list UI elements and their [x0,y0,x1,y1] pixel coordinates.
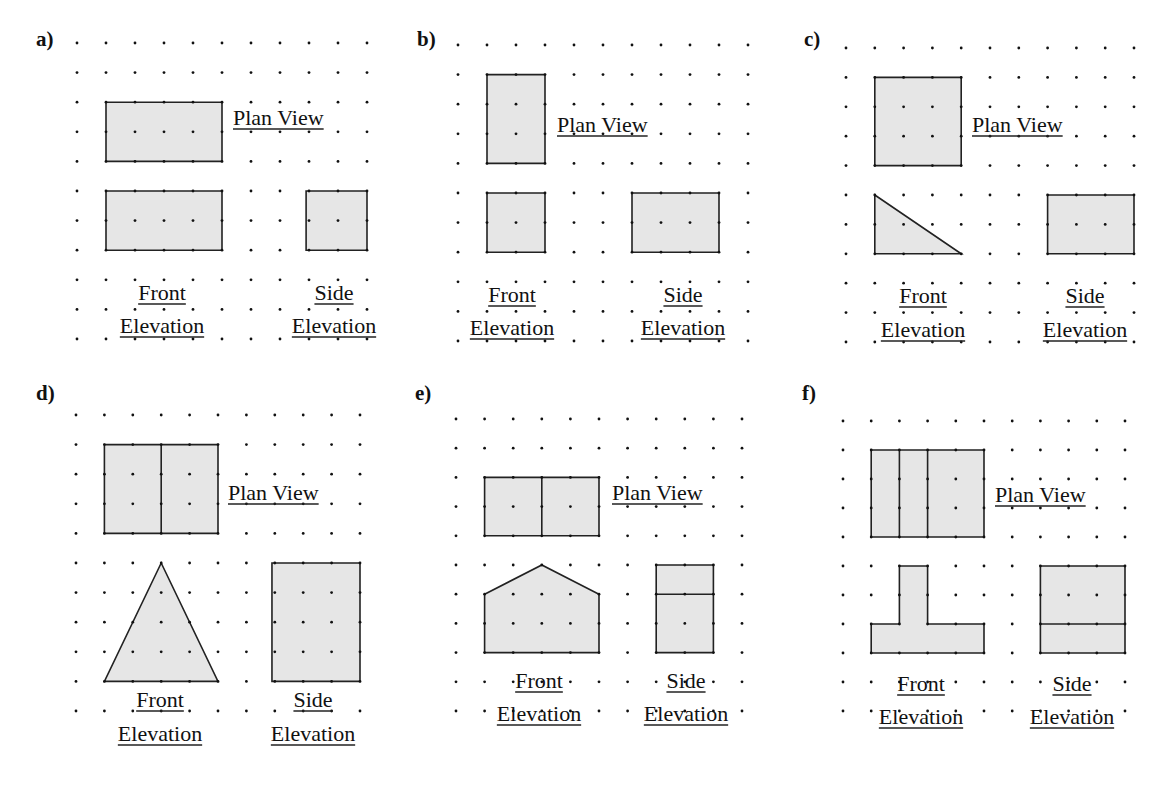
side-view-shape [306,191,367,250]
side-elevation-caption: Elevation [271,721,355,746]
panel-label: f) [802,381,816,405]
side-elevation-caption: Side [293,687,332,712]
panel-e: e)Plan ViewFrontElevationSideElevation [415,381,743,726]
panel-label: a) [36,27,54,51]
front-elevation-caption: Elevation [470,315,554,340]
side-elevation-caption: Elevation [1043,317,1127,342]
front-elevation-caption: Elevation [879,704,963,729]
side-elevation-caption: Elevation [292,313,376,338]
front-view-shape [485,565,599,653]
front-elevation-caption: Front [515,668,563,693]
side-elevation-caption: Side [1052,671,1091,696]
side-view-shape [1040,566,1125,653]
side-elevation-caption: Elevation [644,701,728,726]
plan-view-caption: Plan View [233,105,324,130]
side-elevation-caption: Elevation [641,315,725,340]
plan-view-caption: Plan View [228,480,319,505]
front-elevation-caption: Front [897,671,945,696]
front-view-shape [871,566,984,653]
panel-label: b) [417,27,436,51]
panel-f: f)Plan ViewFrontElevationSideElevation [802,381,1126,729]
plan-view-caption: Plan View [972,112,1063,137]
side-elevation-caption: Side [314,280,353,305]
side-view-shape [1048,195,1134,254]
panel-label: d) [36,381,55,405]
side-view-shape [272,563,360,681]
plan-view-caption: Plan View [557,112,648,137]
plan-view-caption: Plan View [612,480,703,505]
front-elevation-caption: Elevation [118,721,202,746]
front-elevation-caption: Front [138,280,186,305]
plan-view-shape [104,445,218,534]
panel-label: e) [415,381,431,405]
side-elevation-caption: Elevation [1030,704,1114,729]
side-elevation-caption: Side [663,282,702,307]
plan-view-shape [871,450,984,537]
side-elevation-caption: Side [1065,283,1104,308]
panel-label: c) [804,27,820,51]
panel-d: d)Plan ViewFrontElevationSideElevation [36,381,361,746]
front-elevation-caption: Elevation [881,317,965,342]
panel-a: a)Plan ViewFrontElevationSideElevation [36,27,376,340]
side-view-shape [632,193,719,252]
plan-view-shape [487,75,545,164]
panel-c: c)Plan ViewFrontElevationSideElevation [804,27,1135,343]
front-elevation-caption: Front [488,282,536,307]
side-elevation-caption: Side [666,668,705,693]
front-view-shape [875,195,961,254]
plan-view-caption: Plan View [995,482,1086,507]
front-elevation-caption: Front [136,687,184,712]
orthographic-views-figure: a)Plan ViewFrontElevationSideElevationb)… [0,0,1173,785]
plan-view-shape [875,77,961,165]
panel-b: b)Plan ViewFrontElevationSideElevation [417,27,749,342]
front-elevation-caption: Front [899,283,947,308]
side-view-shape [656,565,713,653]
front-elevation-caption: Elevation [497,701,581,726]
front-elevation-caption: Elevation [120,313,204,338]
